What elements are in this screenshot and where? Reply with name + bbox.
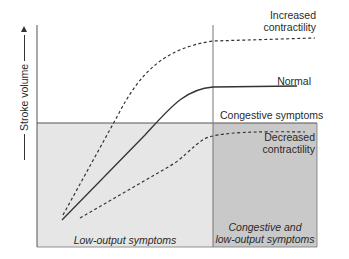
label-congestive-symptoms: Congestive symptoms (220, 109, 316, 121)
y-axis-label-tail (24, 134, 25, 160)
y-axis-label: Stroke volume (18, 26, 30, 160)
label-congestive-and-low-output: Congestive and low-output symptoms (213, 221, 317, 245)
label-congestive-and-line1: Congestive and (213, 221, 317, 233)
label-normal: Normal (260, 75, 311, 87)
label-congestive-and-line2: low-output symptoms (213, 233, 317, 245)
arrow-up-icon (21, 26, 27, 32)
y-axis-label-shaft (24, 35, 25, 61)
low-output-region (37, 123, 213, 247)
label-increased-line2: contractility (250, 21, 316, 33)
label-decreased-contractility: Decreased contractility (240, 131, 315, 155)
label-decreased-line1: Decreased (240, 131, 315, 143)
label-low-output-symptoms: Low-output symptoms (37, 234, 213, 246)
label-increased-line1: Increased (250, 9, 316, 21)
label-decreased-line2: contractility (240, 143, 315, 155)
y-axis-label-text: Stroke volume (18, 64, 30, 131)
label-increased-contractility: Increased contractility (250, 9, 316, 33)
